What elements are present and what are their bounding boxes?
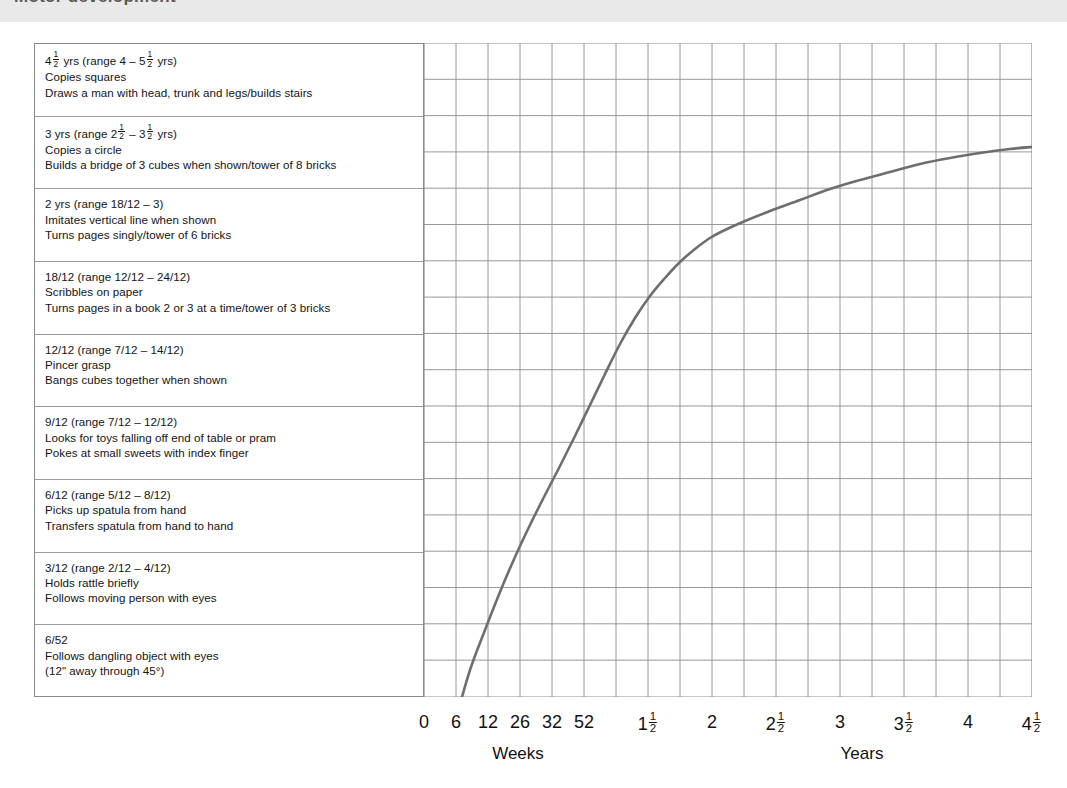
fraction-glyph: 12: [118, 123, 125, 141]
fraction-glyph: 12: [147, 123, 154, 141]
fraction-glyph: 12: [53, 50, 60, 68]
milestone-age-title: 6/12 (range 5/12 – 8/12): [45, 487, 423, 502]
milestone-row: 6/12 (range 5/12 – 8/12)Picks up spatula…: [35, 480, 423, 553]
development-chart: [424, 43, 1032, 697]
fraction-glyph: 12: [1033, 711, 1041, 735]
x-axis-tick-label: 0: [419, 712, 429, 733]
milestone-age-title: 412 yrs (range 4 – 512 yrs): [45, 51, 423, 69]
milestone-detail-2: Turns pages in a book 2 or 3 at a time/t…: [45, 300, 423, 315]
milestone-age-title: 12/12 (range 7/12 – 14/12): [45, 342, 423, 357]
milestone-detail-1: Looks for toys falling off end of table …: [45, 430, 423, 445]
milestone-row: 3/12 (range 2/12 – 4/12)Holds rattle bri…: [35, 553, 423, 626]
x-axis-tick-label: 412: [1022, 712, 1042, 736]
milestone-detail-1: Copies a circle: [45, 142, 423, 157]
milestone-age-title: 2 yrs (range 18/12 – 3): [45, 196, 423, 211]
x-axis-tick-label: 6: [451, 712, 461, 733]
milestone-row: 412 yrs (range 4 – 512 yrs)Copies square…: [35, 44, 423, 117]
page-header-banner: Motor development: [0, 0, 1067, 22]
milestone-age-title: 9/12 (range 7/12 – 12/12): [45, 414, 423, 429]
chart-svg: [424, 43, 1032, 697]
milestone-detail-2: (12" away through 45°): [45, 663, 423, 678]
milestone-detail-1: Pincer grasp: [45, 357, 423, 372]
milestone-detail-2: Draws a man with head, trunk and legs/bu…: [45, 85, 423, 100]
milestone-detail-2: Pokes at small sweets with index finger: [45, 445, 423, 460]
x-axis-tick-label: 12: [478, 712, 498, 733]
milestone-detail-2: Builds a bridge of 3 cubes when shown/to…: [45, 157, 423, 172]
milestone-description-panel: 412 yrs (range 4 – 512 yrs)Copies square…: [34, 43, 424, 697]
milestone-age-title: 3 yrs (range 212 – 312 yrs): [45, 124, 423, 142]
milestone-detail-2: Follows moving person with eyes: [45, 590, 423, 605]
milestone-age-title: 18/12 (range 12/12 – 24/12): [45, 269, 423, 284]
milestone-detail-1: Imitates vertical line when shown: [45, 212, 423, 227]
fraction-glyph: 12: [649, 711, 657, 735]
fraction-glyph: 12: [147, 50, 154, 68]
milestone-detail-2: Transfers spatula from hand to hand: [45, 518, 423, 533]
x-axis-tick-label: 112: [638, 712, 658, 736]
x-axis-caption: Years: [841, 744, 884, 764]
x-axis-tick-label: 32: [542, 712, 562, 733]
milestone-detail-1: Copies squares: [45, 69, 423, 84]
milestone-detail-2: Turns pages singly/tower of 6 bricks: [45, 227, 423, 242]
horizontal-gridlines: [424, 43, 1032, 697]
milestone-detail-1: Holds rattle briefly: [45, 575, 423, 590]
milestone-row: 9/12 (range 7/12 – 12/12)Looks for toys …: [35, 407, 423, 480]
milestone-row: 3 yrs (range 212 – 312 yrs)Copies a circ…: [35, 117, 423, 190]
milestone-age-title: 3/12 (range 2/12 – 4/12): [45, 560, 423, 575]
milestone-row: 6/52Follows dangling object with eyes(12…: [35, 625, 423, 698]
x-axis-caption: Weeks: [492, 744, 544, 764]
x-axis-tick-label: 52: [574, 712, 594, 733]
milestone-row: 12/12 (range 7/12 – 14/12)Pincer graspBa…: [35, 335, 423, 408]
milestone-detail-1: Picks up spatula from hand: [45, 502, 423, 517]
fraction-glyph: 12: [777, 711, 785, 735]
milestone-row: 18/12 (range 12/12 – 24/12)Scribbles on …: [35, 262, 423, 335]
milestone-detail-1: Scribbles on paper: [45, 284, 423, 299]
milestone-detail-2: Bangs cubes together when shown: [45, 372, 423, 387]
x-axis-tick-label: 4: [963, 712, 973, 733]
x-axis-tick-label: 3: [835, 712, 845, 733]
figure-sheet: 412 yrs (range 4 – 512 yrs)Copies square…: [0, 22, 1067, 788]
banner-cut-title: Motor development: [14, 0, 176, 7]
x-axis-tick-label: 212: [766, 712, 786, 736]
x-axis-tick-label: 26: [510, 712, 530, 733]
fraction-glyph: 12: [905, 711, 913, 735]
development-curve: [455, 147, 1032, 697]
milestone-detail-1: Follows dangling object with eyes: [45, 648, 423, 663]
milestone-row: 2 yrs (range 18/12 – 3)Imitates vertical…: [35, 189, 423, 262]
milestone-age-title: 6/52: [45, 632, 423, 647]
x-axis-tick-label: 2: [707, 712, 717, 733]
x-axis-tick-label: 312: [894, 712, 914, 736]
